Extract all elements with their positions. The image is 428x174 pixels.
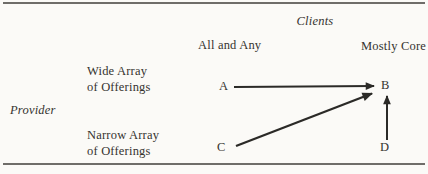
arrow-a-to-b bbox=[234, 86, 374, 87]
provider-axis-label: Provider bbox=[10, 104, 56, 117]
node-d: D bbox=[380, 141, 389, 154]
row-label-narrow-array: Narrow Array of Offerings bbox=[87, 127, 159, 159]
arrow-c-to-b bbox=[236, 94, 372, 147]
row-label-wide-array-line1: Wide Array bbox=[87, 63, 151, 79]
node-b: B bbox=[381, 79, 389, 92]
node-c: C bbox=[217, 141, 225, 154]
clients-axis-label: Clients bbox=[280, 15, 350, 28]
top-rule bbox=[3, 2, 425, 4]
row-label-narrow-array-line1: Narrow Array bbox=[87, 127, 159, 143]
bottom-rule bbox=[3, 163, 425, 165]
row-label-wide-array-line2: of Offerings bbox=[87, 79, 151, 95]
provider-clients-diagram: Clients Provider All and Any Mostly Core… bbox=[0, 0, 428, 174]
column-header-all-and-any: All and Any bbox=[198, 39, 261, 52]
edges-layer bbox=[0, 0, 428, 174]
row-label-narrow-array-line2: of Offerings bbox=[87, 143, 159, 159]
node-a: A bbox=[219, 80, 228, 93]
column-header-mostly-core: Mostly Core bbox=[361, 40, 426, 53]
row-label-wide-array: Wide Array of Offerings bbox=[87, 63, 151, 95]
